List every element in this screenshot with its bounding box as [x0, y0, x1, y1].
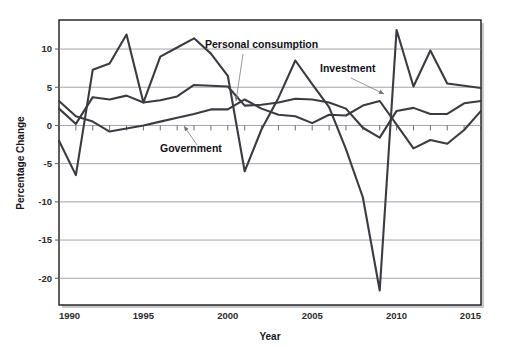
x-tick-label: 1995 — [133, 310, 155, 321]
x-axis-tick-labels: 199019952000200520102015 — [59, 310, 482, 321]
y-tick-label: -10 — [38, 196, 52, 207]
line-chart: 1050-5-10-15-20 199019952000200520102015… — [0, 0, 511, 361]
y-axis-tick-labels: 1050-5-10-15-20 — [38, 43, 52, 283]
chart-container: 1050-5-10-15-20 199019952000200520102015… — [0, 0, 511, 361]
annotation-label-government: Government — [160, 142, 222, 154]
y-tick-label: 5 — [47, 82, 53, 93]
y-axis-title: Percentage Change — [15, 116, 26, 210]
annotation-label-personal-consumption: Personal consumption — [205, 38, 318, 50]
y-tick-label: -20 — [38, 273, 52, 284]
x-tick-label: 2005 — [302, 310, 324, 321]
y-tick-label: -5 — [44, 158, 53, 169]
y-tick-label: -15 — [38, 234, 52, 245]
x-tick-label: 2010 — [386, 310, 407, 321]
x-axis-title: Year — [259, 331, 280, 342]
x-tick-label: 1990 — [59, 310, 80, 321]
x-tick-label: 2015 — [460, 310, 482, 321]
annotation-label-investment: Investment — [320, 62, 376, 74]
plot-area — [59, 20, 481, 305]
y-tick-label: 0 — [47, 120, 52, 131]
x-tick-label: 2000 — [217, 310, 238, 321]
y-tick-label: 10 — [41, 43, 52, 54]
